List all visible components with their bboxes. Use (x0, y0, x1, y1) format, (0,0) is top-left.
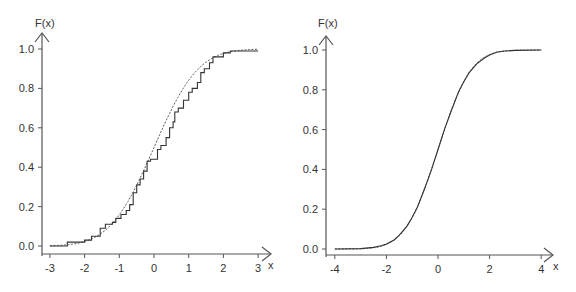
right-y-axis-title: F(x) (318, 17, 338, 29)
x-tick-label: 1 (186, 262, 192, 274)
left-x-ticks: -3-2-10123 (45, 254, 261, 274)
x-tick-label: 0 (435, 263, 441, 275)
right-x-axis-title: x (553, 260, 559, 272)
right-chart: F(x) x 0.00.20.40.60.81.0 -4-2024 (303, 17, 559, 275)
left-normal-cdf-curve (50, 49, 258, 245)
right-empirical-cdf-curve (335, 50, 541, 249)
left-x-axis-title: x (268, 259, 274, 271)
y-tick-label: 0.4 (19, 161, 34, 173)
y-tick-label: 0.0 (19, 240, 34, 252)
x-tick-label: 2 (220, 262, 226, 274)
x-tick-label: -4 (330, 263, 340, 275)
y-tick-label: 1.0 (19, 43, 34, 55)
y-tick-label: 1.0 (303, 44, 318, 56)
y-tick-label: 0.4 (303, 163, 318, 175)
y-tick-label: 0.0 (303, 243, 318, 255)
x-tick-label: -3 (45, 262, 55, 274)
y-tick-label: 0.8 (19, 82, 34, 94)
y-tick-label: 0.2 (303, 203, 318, 215)
x-tick-label: 0 (151, 262, 157, 274)
x-tick-label: 3 (255, 262, 261, 274)
figure-canvas: F(x) x 0.00.20.40.60.81.0 -3-2-10123 F(x… (0, 0, 576, 292)
y-tick-label: 0.8 (303, 84, 318, 96)
x-tick-label: -1 (114, 262, 124, 274)
x-tick-label: 4 (538, 263, 544, 275)
x-tick-label: 2 (487, 263, 493, 275)
right-y-ticks: 0.00.20.40.60.81.0 (303, 44, 326, 255)
left-y-axis-title: F(x) (35, 17, 55, 29)
x-tick-label: -2 (80, 262, 90, 274)
left-y-ticks: 0.00.20.40.60.81.0 (19, 43, 42, 252)
y-tick-label: 0.6 (303, 124, 318, 136)
x-tick-label: -2 (382, 263, 392, 275)
y-tick-label: 0.6 (19, 122, 34, 134)
right-x-ticks: -4-2024 (330, 255, 544, 275)
y-tick-label: 0.2 (19, 201, 34, 213)
left-chart: F(x) x 0.00.20.40.60.81.0 -3-2-10123 (19, 17, 274, 274)
